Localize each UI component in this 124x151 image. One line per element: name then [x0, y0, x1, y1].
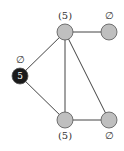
node-outer-label: ∅ [16, 54, 25, 65]
node-left: 5∅ [12, 54, 28, 84]
node-top-right: ∅ [101, 10, 117, 40]
node-bottom-middle: (5) [57, 112, 73, 141]
node-circle [101, 112, 117, 128]
node-circle [101, 24, 117, 40]
node-circle [57, 112, 73, 128]
edge-left-bottom-middle [20, 76, 65, 120]
edge-top-middle-left [20, 32, 65, 76]
node-outer-label: (5) [58, 10, 72, 21]
node-circle [57, 24, 73, 40]
node-outer-label: (5) [58, 130, 72, 141]
node-bottom-right: ∅ [101, 112, 117, 141]
graph-svg: (5)∅5∅(5)∅ [0, 0, 124, 151]
graph-diagram: (5)∅5∅(5)∅ [0, 0, 124, 151]
edges-group [20, 32, 109, 120]
node-top-middle: (5) [57, 10, 73, 40]
node-outer-label: ∅ [105, 130, 114, 141]
node-inner-label: 5 [17, 71, 23, 81]
edge-top-middle-bottom-right [65, 32, 109, 120]
node-outer-label: ∅ [105, 10, 114, 21]
